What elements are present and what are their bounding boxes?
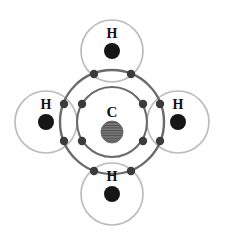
hydrogen-right-nucleus	[170, 114, 186, 130]
hydrogen-bottom-label: H	[107, 169, 118, 184]
inner-shell-electron-dot	[139, 137, 147, 145]
hydrogen-bottom-nucleus	[104, 186, 120, 202]
bonding-electron-dot	[60, 100, 68, 108]
inner-shell-electron-dot	[139, 100, 147, 108]
carbon-label: C	[107, 104, 118, 120]
bonding-electron-dot	[60, 137, 68, 145]
methane-diagram: C H H H H	[0, 0, 225, 240]
bonding-electron-dot	[156, 137, 164, 145]
bonding-electron-dot	[127, 167, 135, 175]
bonding-electron-dot	[90, 167, 98, 175]
inner-shell-electron-dot	[78, 137, 86, 145]
bonding-electron-dot	[90, 70, 98, 78]
hydrogen-left-label: H	[41, 97, 52, 112]
inner-shell-electron-dot	[78, 100, 86, 108]
carbon-nucleus	[101, 121, 123, 143]
hydrogen-right-label: H	[173, 97, 184, 112]
hydrogen-left-nucleus	[38, 114, 54, 130]
hydrogen-top-nucleus	[104, 43, 120, 59]
bonding-electron-dot	[156, 100, 164, 108]
molecule-svg: C H H H H	[0, 0, 225, 240]
bonding-electron-dot	[127, 70, 135, 78]
hydrogen-top-label: H	[107, 26, 118, 41]
